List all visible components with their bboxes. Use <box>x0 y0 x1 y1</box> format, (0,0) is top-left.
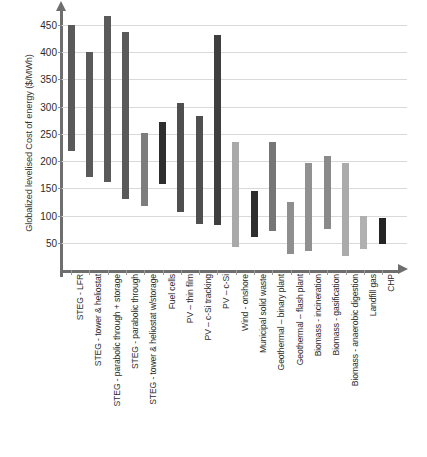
x-tick-label: Landfill gas <box>368 274 378 316</box>
bar <box>360 216 367 250</box>
y-tick-mark <box>58 134 62 135</box>
x-tick-mark <box>291 270 292 275</box>
y-tick-label: 400 <box>40 47 57 58</box>
x-axis-arrow-icon <box>398 264 408 274</box>
x-tick-mark <box>181 270 182 275</box>
bar <box>324 156 331 230</box>
x-tick-mark <box>89 270 90 275</box>
x-tick-mark <box>144 270 145 275</box>
x-tick-label: PV – thin film <box>185 274 195 323</box>
gridline <box>62 134 407 135</box>
x-axis-line <box>60 270 398 273</box>
y-axis-line <box>60 7 63 277</box>
x-tick-mark <box>108 270 109 275</box>
x-tick-mark <box>199 270 200 275</box>
x-tick-mark <box>382 270 383 275</box>
bar <box>68 25 75 151</box>
chart-figure: Globalized levelised Cost of energy ($/M… <box>0 0 427 457</box>
bar <box>86 52 93 177</box>
y-tick-mark <box>58 188 62 189</box>
x-tick-label: Municipal solid waste <box>258 274 268 353</box>
bar <box>269 142 276 231</box>
y-tick-mark <box>58 52 62 53</box>
y-tick-mark <box>58 161 62 162</box>
x-tick-label: STEG - parabolic through <box>130 274 140 369</box>
x-tick-label: STEG - tower & heliostat w/storage <box>148 274 158 405</box>
y-tick-mark <box>58 79 62 80</box>
x-tick-label: PV – c-Si tracking <box>203 274 213 341</box>
x-tick-mark <box>71 270 72 275</box>
bar <box>379 218 386 244</box>
x-tick-label: Geothermal – flash plant <box>295 274 305 365</box>
x-tick-mark <box>327 270 328 275</box>
bar <box>141 133 148 206</box>
y-tick-label: 250 <box>40 128 57 139</box>
y-tick-label: 100 <box>40 210 57 221</box>
bar <box>214 35 221 226</box>
bar <box>232 142 239 247</box>
x-tick-mark <box>272 270 273 275</box>
x-tick-mark <box>163 270 164 275</box>
bar <box>159 122 166 184</box>
y-tick-mark <box>58 216 62 217</box>
x-tick-label: Biomass - anaerobic digestion <box>350 274 360 386</box>
bar <box>342 163 349 257</box>
bar <box>177 103 184 212</box>
bar <box>287 202 294 254</box>
y-tick-mark <box>58 243 62 244</box>
y-tick-label: 350 <box>40 74 57 85</box>
y-tick-label: 450 <box>40 19 57 30</box>
y-tick-label: 150 <box>40 183 57 194</box>
gridline <box>62 79 407 80</box>
y-tick-label: 50 <box>46 237 57 248</box>
bar <box>122 32 129 199</box>
x-tick-label: Biomass - incineration <box>313 274 323 356</box>
x-tick-label: PV – c-Si <box>221 274 231 309</box>
y-axis-arrow-icon <box>56 1 66 11</box>
gridline <box>62 107 407 108</box>
x-tick-mark <box>364 270 365 275</box>
bar <box>196 116 203 224</box>
x-tick-label: Geothermal – binary plant <box>276 274 286 370</box>
x-tick-label: STEG - parabolic through + storage <box>112 274 122 407</box>
x-tick-label: Wind - onshore <box>240 274 250 331</box>
y-tick-label: 300 <box>40 101 57 112</box>
x-tick-mark <box>346 270 347 275</box>
plot-area: 50100150200250300350400450 <box>62 14 407 270</box>
x-tick-label: Fuel cells <box>167 274 177 309</box>
y-tick-mark <box>58 107 62 108</box>
x-tick-mark <box>309 270 310 275</box>
x-tick-mark <box>126 270 127 275</box>
gridline <box>62 25 407 26</box>
bar <box>251 191 258 237</box>
bar <box>104 16 111 182</box>
x-tick-mark <box>217 270 218 275</box>
x-tick-label: Biomass - gasification <box>331 274 341 355</box>
x-tick-mark <box>236 270 237 275</box>
x-tick-label: CHP <box>386 274 396 292</box>
x-tick-label: STEG - tower & heliostat <box>93 274 103 366</box>
gridline <box>62 52 407 53</box>
y-tick-label: 200 <box>40 156 57 167</box>
y-axis-title: Globalized levelised Cost of energy ($/M… <box>24 18 34 268</box>
x-tick-mark <box>254 270 255 275</box>
bar <box>305 163 312 251</box>
x-tick-label: STEG - LFR <box>75 274 85 320</box>
y-tick-mark <box>58 25 62 26</box>
